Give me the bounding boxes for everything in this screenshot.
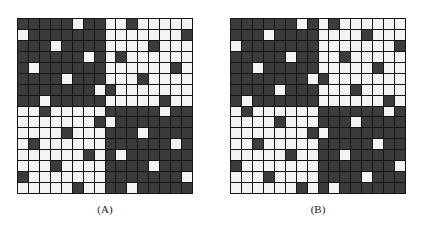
grid-cell (73, 96, 83, 106)
grid-cell (116, 161, 126, 171)
grid-cell (395, 96, 405, 106)
grid-cell (231, 30, 241, 40)
grid-cell (18, 74, 28, 84)
grid-cell (231, 19, 241, 29)
grid-cell (116, 19, 126, 29)
grid-cell (116, 183, 126, 193)
grid-cell (106, 63, 116, 73)
grid-cell (73, 74, 83, 84)
grid-cell (160, 128, 170, 138)
grid-cell (395, 183, 405, 193)
grid-cell (384, 161, 394, 171)
grid-cell (253, 150, 263, 160)
grid-cell (51, 74, 61, 84)
grid-cell (127, 161, 137, 171)
grid-cell (84, 30, 94, 40)
grid-cell (340, 41, 350, 51)
grid-cell (253, 183, 263, 193)
grid-cell (51, 41, 61, 51)
grid-cell (171, 85, 181, 95)
grid-cell (340, 117, 350, 127)
grid-cell (297, 183, 307, 193)
grid-cell (40, 128, 50, 138)
grid-cell (40, 19, 50, 29)
grid-cell (171, 117, 181, 127)
grid-cell (116, 30, 126, 40)
grid-cell (138, 19, 148, 29)
grid-cell (84, 172, 94, 182)
grid-cell (182, 30, 192, 40)
grid-cell (308, 96, 318, 106)
grid-cell (264, 41, 274, 51)
grid-cell (275, 139, 285, 149)
grid-cell (95, 183, 105, 193)
grid-cell (373, 172, 383, 182)
grid-cell (286, 183, 296, 193)
grid-cell (62, 30, 72, 40)
grid-cell (340, 19, 350, 29)
grid-cell (242, 117, 252, 127)
grid-cell (18, 183, 28, 193)
grid-cell (351, 52, 361, 62)
grid-cell (116, 96, 126, 106)
grid-cell (29, 19, 39, 29)
grid-cell (351, 139, 361, 149)
grid-cell (95, 107, 105, 117)
grid-cell (116, 117, 126, 127)
grid-cell (171, 19, 181, 29)
grid-cell (395, 52, 405, 62)
grid-cell (242, 150, 252, 160)
grid-cell (308, 161, 318, 171)
grid-cell (340, 183, 350, 193)
grid-cell (160, 172, 170, 182)
grid-cell (242, 139, 252, 149)
grid-cell (384, 139, 394, 149)
grid-cell (242, 85, 252, 95)
grid-cell (29, 74, 39, 84)
grid-cell (319, 107, 329, 117)
grid-cell (384, 172, 394, 182)
grid-cell (242, 161, 252, 171)
grid-cell (84, 107, 94, 117)
grid-cell (51, 183, 61, 193)
grid-cell (362, 139, 372, 149)
grid-cell (29, 85, 39, 95)
grid-cell (116, 85, 126, 95)
grid-cell (18, 85, 28, 95)
grid-cell (242, 128, 252, 138)
grid-cell (18, 161, 28, 171)
grid-cell (329, 117, 339, 127)
grid-cell (62, 161, 72, 171)
grid-cell (286, 30, 296, 40)
grid-cell (40, 161, 50, 171)
grid-cell (308, 139, 318, 149)
grid-cell (182, 128, 192, 138)
grid-cell (62, 172, 72, 182)
grid-cell (106, 19, 116, 29)
grid-cell (351, 128, 361, 138)
grid-cell (286, 85, 296, 95)
grid-cell (286, 74, 296, 84)
grid-cell (297, 52, 307, 62)
grid-cell (340, 74, 350, 84)
grid-cell (160, 161, 170, 171)
grid-cell (395, 30, 405, 40)
grid-cell (116, 74, 126, 84)
grid-cell (127, 183, 137, 193)
grid-cell (395, 85, 405, 95)
grid-cell (171, 161, 181, 171)
grid-cell (95, 52, 105, 62)
grid-cell (127, 63, 137, 73)
grid-cell (62, 183, 72, 193)
grid-cell (384, 85, 394, 95)
grid-cell (18, 63, 28, 73)
grid-cell (362, 96, 372, 106)
grid-cell (51, 19, 61, 29)
grid-cell (242, 30, 252, 40)
grid-cell (384, 128, 394, 138)
grid-cell (362, 85, 372, 95)
grid-cell (264, 19, 274, 29)
grid-cell (40, 117, 50, 127)
grid-cell (351, 183, 361, 193)
grid-cell (84, 150, 94, 160)
